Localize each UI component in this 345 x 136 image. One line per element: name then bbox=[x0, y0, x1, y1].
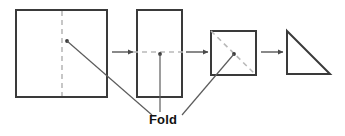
step-4-triangle-group bbox=[287, 31, 330, 74]
fold-diagram-container: Fold bbox=[0, 0, 345, 136]
step-1-square-group bbox=[16, 10, 107, 97]
fold-leader-lines-group bbox=[67, 41, 234, 115]
leader-from-step-1 bbox=[67, 41, 152, 115]
leader-from-step-3 bbox=[182, 54, 234, 115]
step-3-square-group bbox=[211, 31, 256, 75]
step-4-triangle-outline bbox=[287, 31, 330, 74]
fold-diagram: Fold bbox=[0, 0, 345, 136]
fold-label: Fold bbox=[149, 112, 177, 127]
